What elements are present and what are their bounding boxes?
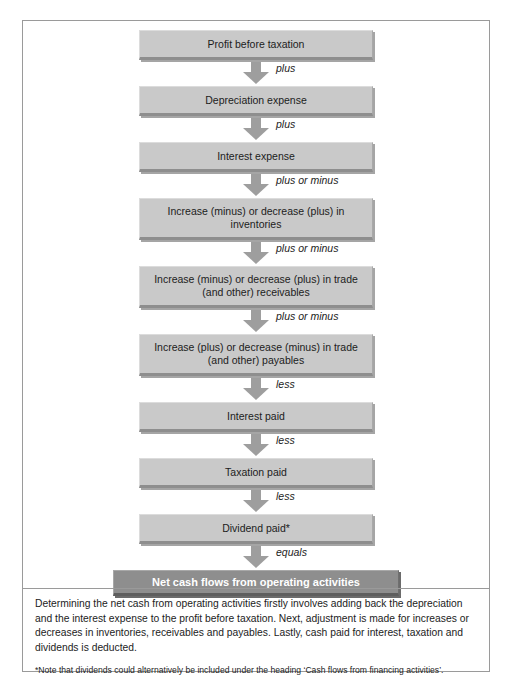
down-arrow-icon [241, 434, 271, 456]
flow-node-label: Increase (minus) or decrease (plus) in t… [140, 273, 372, 299]
flow-node-interest-paid: Interest paid [139, 402, 373, 432]
flowchart: Profit before taxation plus Depreciation… [23, 30, 489, 596]
flow-node-label: Profit before taxation [200, 38, 313, 51]
operator-label: plus [276, 118, 295, 130]
flow-connector-8: less [139, 488, 373, 514]
flow-node-label: Taxation paid [217, 466, 295, 479]
caption-divider [23, 588, 489, 589]
down-arrow-icon [241, 62, 271, 84]
flow-node-inventories-change: Increase (minus) or decrease (plus) in i… [139, 198, 373, 240]
flow-connector-3: plus or minus [139, 172, 373, 198]
down-arrow-icon [241, 118, 271, 140]
caption-block: Determining the net cash from operating … [35, 597, 477, 676]
flow-connector-4: plus or minus [139, 240, 373, 266]
flow-node-interest-expense: Interest expense [139, 142, 373, 172]
flow-node-label: Increase (minus) or decrease (plus) in i… [140, 205, 372, 231]
operator-label: equals [276, 546, 307, 558]
flow-node-taxation-paid: Taxation paid [139, 458, 373, 488]
operator-label: plus or minus [276, 310, 338, 322]
flow-node-receivables-change: Increase (minus) or decrease (plus) in t… [139, 266, 373, 308]
caption-body: Determining the net cash from operating … [35, 597, 477, 655]
flow-node-label: Increase (plus) or decrease (minus) in t… [140, 341, 372, 367]
caption-footnote: *Note that dividends could alternatively… [35, 664, 477, 676]
flow-node-label: Net cash flows from operating activities [144, 576, 368, 589]
flow-connector-2: plus [139, 116, 373, 142]
operator-label: plus [276, 62, 295, 74]
flow-node-label: Interest expense [209, 150, 303, 163]
operator-label: plus or minus [276, 242, 338, 254]
flow-node-label: Interest paid [219, 410, 293, 423]
flow-connector-5: plus or minus [139, 308, 373, 334]
flow-node-net-cash-flows: Net cash flows from operating activities [113, 570, 399, 596]
figure-frame: Profit before taxation plus Depreciation… [22, 20, 490, 672]
scan-edge-sliver [18, 0, 138, 10]
flow-connector-1: plus [139, 60, 373, 86]
flow-node-payables-change: Increase (plus) or decrease (minus) in t… [139, 334, 373, 376]
flow-node-depreciation-expense: Depreciation expense [139, 86, 373, 116]
flow-connector-7: less [139, 432, 373, 458]
operator-label: less [276, 378, 295, 390]
operator-label: plus or minus [276, 174, 338, 186]
down-arrow-icon [241, 546, 271, 568]
flow-connector-9: equals [113, 544, 399, 570]
operator-label: less [276, 490, 295, 502]
down-arrow-icon [241, 490, 271, 512]
down-arrow-icon [241, 378, 271, 400]
operator-label: less [276, 434, 295, 446]
down-arrow-icon [241, 174, 271, 196]
flow-node-label: Dividend paid* [214, 522, 298, 535]
down-arrow-icon [241, 242, 271, 264]
down-arrow-icon [241, 310, 271, 332]
flow-connector-6: less [139, 376, 373, 402]
flow-node-dividend-paid: Dividend paid* [139, 514, 373, 544]
flow-node-profit-before-taxation: Profit before taxation [139, 30, 373, 60]
flow-node-label: Depreciation expense [197, 94, 315, 107]
